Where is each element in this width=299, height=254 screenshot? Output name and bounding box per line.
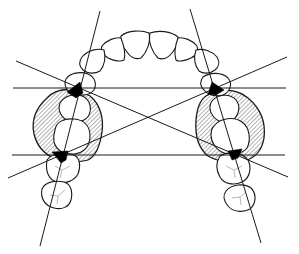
central-incisor-right [149,31,178,58]
second-premolar-right [210,95,239,122]
canine-left [80,49,105,73]
first-molar-left [54,119,90,154]
canine-right [195,49,219,73]
first-molar-right [211,119,249,155]
third-molar-left [42,181,72,208]
dental-arch-diagram [0,0,299,254]
